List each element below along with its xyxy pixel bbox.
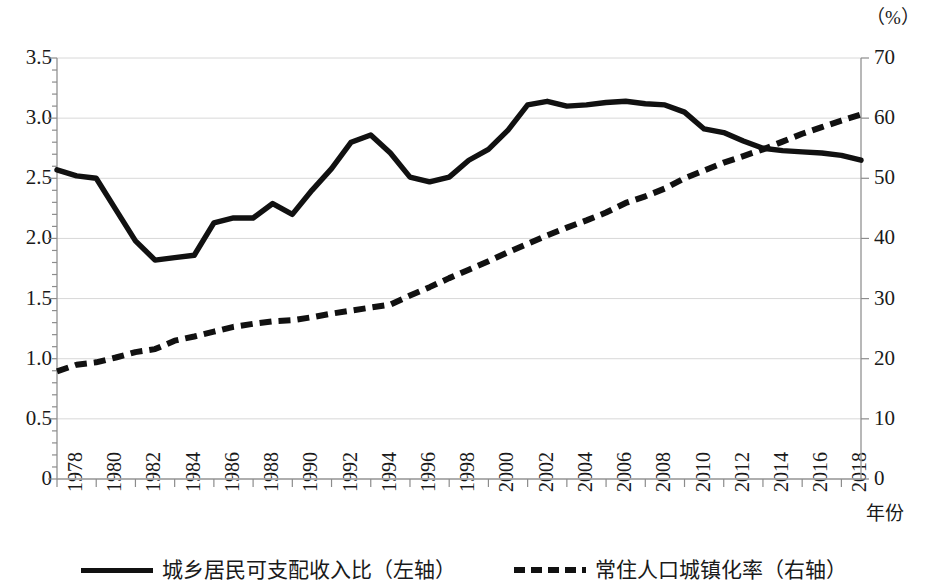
legend-item-income-ratio: 城乡居民可支配收入比（左轴） bbox=[81, 560, 456, 581]
chart-legend: 城乡居民可支配收入比（左轴） 常住人口城镇化率（右轴） bbox=[0, 552, 928, 588]
legend-label-urbanization-rate: 常住人口城镇化率（右轴） bbox=[595, 560, 847, 581]
legend-label-income-ratio: 城乡居民可支配收入比（左轴） bbox=[162, 560, 456, 581]
dashed-line-swatch-icon bbox=[514, 567, 586, 573]
plot-area bbox=[0, 0, 928, 588]
legend-item-urbanization-rate: 常住人口城镇化率（右轴） bbox=[514, 560, 847, 581]
solid-line-swatch-icon bbox=[81, 568, 153, 573]
series-line-income-ratio bbox=[57, 101, 861, 260]
series-line-urbanization-rate bbox=[57, 115, 861, 372]
dual-axis-line-chart: （%） 00.51.01.52.02.53.03.5 0102030405060… bbox=[0, 0, 928, 588]
